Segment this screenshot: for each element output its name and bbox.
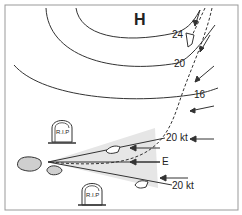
grave-lower: R.I.P (78, 184, 106, 206)
island-large (17, 157, 41, 171)
high-pressure-label: H (134, 11, 146, 28)
wind-speed-upper: 20 kt (166, 132, 188, 143)
grave-label: R.I.P (86, 192, 99, 198)
grave-upper: R.I.P (48, 121, 76, 144)
isobar-label-20: 20 (174, 58, 186, 69)
boat-top (186, 33, 194, 47)
weather-routing-diagram: H 24 20 16 R.I.P (0, 0, 242, 215)
isobar-label-24: 24 (172, 29, 184, 40)
grave-label: R.I.P (56, 129, 69, 135)
wind-speed-lower: 20 kt (172, 180, 194, 191)
isobar-label-16: 16 (194, 89, 206, 100)
island-small (47, 166, 62, 175)
isobar-16 (14, 65, 218, 99)
direction-label-e: E (162, 156, 169, 167)
